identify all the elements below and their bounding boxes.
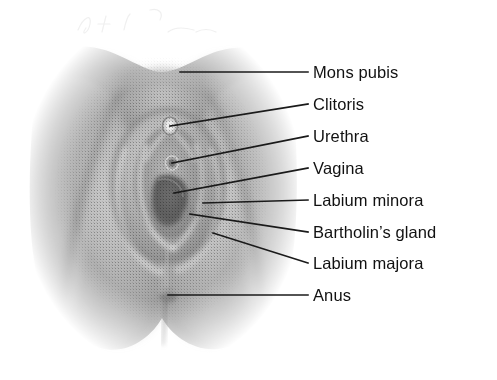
lower-left-shading — [22, 248, 110, 352]
label-labium-minora: Labium minora — [313, 192, 423, 209]
label-mons-pubis: Mons pubis — [313, 64, 398, 81]
illustration-svg — [0, 0, 320, 380]
label-bartholins-gland: Bartholin’s gland — [313, 224, 436, 241]
diagram-canvas: Mons pubis Clitoris Urethra Vagina Labiu… — [0, 0, 497, 380]
label-urethra: Urethra — [313, 128, 369, 145]
perineum — [166, 248, 168, 290]
label-clitoris: Clitoris — [313, 96, 364, 113]
label-anus: Anus — [313, 287, 351, 304]
anatomical-illustration — [0, 0, 320, 380]
lower-right-shading — [218, 248, 306, 352]
clitoris-glans-highlight — [166, 121, 174, 131]
label-vagina: Vagina — [313, 160, 364, 177]
body-silhouette — [22, 46, 306, 352]
scan-artifact-marks — [78, 9, 216, 32]
bartholins-gland-structure — [182, 208, 198, 220]
urethral-meatus — [169, 160, 175, 167]
label-labium-majora: Labium majora — [313, 255, 423, 272]
